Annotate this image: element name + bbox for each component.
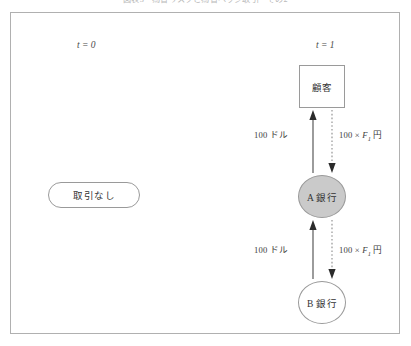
arrow-up-usd-upper-icon <box>308 110 318 174</box>
figure-root: 図表3 為替リスクと為替ヘッジ取引 その2 t = 0 t = 1 取引なし 顧… <box>0 0 411 346</box>
flow-label-jpy-lower-unit: 円 <box>373 245 382 255</box>
flow-label-usd-lower: 100 ドル <box>254 243 288 255</box>
node-no-transaction: 取引なし <box>48 182 140 208</box>
flow-label-jpy-upper-unit: 円 <box>373 130 382 140</box>
flow-label-jpy-upper: 100 × F1 円 <box>339 128 383 142</box>
flow-label-jpy-upper-sub: 1 <box>368 135 371 142</box>
node-bank-b: B 銀行 <box>298 281 346 324</box>
diagram-frame: t = 0 t = 1 <box>10 12 400 334</box>
flow-label-jpy-lower: 100 × F1 円 <box>339 243 383 257</box>
node-bank-a: A 銀行 <box>298 175 346 218</box>
flow-label-jpy-upper-amount: 100 × <box>339 130 360 140</box>
flow-label-jpy-lower-sub: 1 <box>368 250 371 257</box>
arrow-up-usd-lower-icon <box>308 220 318 280</box>
time-label-t0: t = 0 <box>77 40 96 50</box>
figure-caption: 図表3 為替リスクと為替ヘッジ取引 その2 <box>0 0 411 4</box>
node-customer: 顧客 <box>299 65 345 108</box>
flow-label-usd-upper: 100 ドル <box>254 128 288 140</box>
arrow-down-jpy-upper-icon <box>327 110 337 174</box>
arrow-down-jpy-lower-icon <box>327 220 337 280</box>
time-label-t1: t = 1 <box>316 40 335 50</box>
flow-label-jpy-lower-amount: 100 × <box>339 245 360 255</box>
